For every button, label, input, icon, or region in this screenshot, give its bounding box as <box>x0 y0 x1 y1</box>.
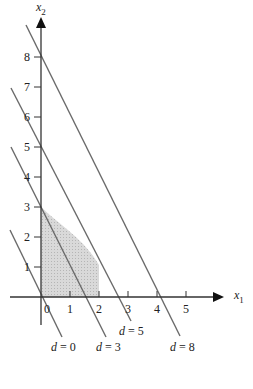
feasible-region <box>41 207 99 297</box>
label-d0: d = 0 <box>51 340 76 354</box>
label-d3: d = 3 <box>96 340 121 354</box>
svg-text:0: 0 <box>44 302 50 316</box>
y-axis-label: x2 <box>35 0 46 17</box>
svg-text:8: 8 <box>24 50 30 64</box>
svg-text:2: 2 <box>24 230 30 244</box>
svg-text:3: 3 <box>24 200 30 214</box>
svg-text:2: 2 <box>96 302 102 316</box>
svg-text:1: 1 <box>67 302 73 316</box>
x-axis-arrow-icon <box>213 292 224 302</box>
svg-text:4: 4 <box>154 302 160 316</box>
svg-text:3: 3 <box>125 302 131 316</box>
svg-text:6: 6 <box>24 110 30 124</box>
label-d5: d = 5 <box>119 324 144 338</box>
svg-text:1: 1 <box>24 260 30 274</box>
svg-text:5: 5 <box>183 302 189 316</box>
svg-text:7: 7 <box>24 80 30 94</box>
diagram-canvas: 0 1 2 3 4 5 1 2 3 4 5 6 7 8 x1 x2 d = 0 … <box>0 0 253 389</box>
y-tick-labels: 1 2 3 4 5 6 7 8 <box>24 50 30 274</box>
y-axis-arrow-icon <box>36 17 46 28</box>
svg-text:4: 4 <box>24 170 30 184</box>
svg-text:5: 5 <box>24 140 30 154</box>
x-axis-label: x1 <box>233 288 244 305</box>
label-d8: d = 8 <box>170 340 195 354</box>
y-ticks <box>34 57 41 267</box>
